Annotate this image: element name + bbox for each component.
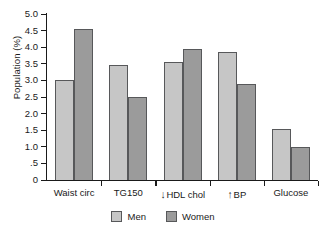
category-label-bp: ↑BP [227,188,246,200]
category-label-waist-circ: Waist circ [54,188,95,198]
legend: MenWomen [0,211,326,222]
legend-item-men: Men [111,211,145,222]
x-axis-line [46,180,318,181]
x-tick [155,181,156,186]
category-label-tg150: TG150 [114,188,143,198]
bar-men-waist-circ [55,80,74,180]
bar-women-bp [237,84,256,180]
y-tick-label: 4.5 [0,26,38,36]
category-label-text: Waist circ [54,187,95,198]
y-tick-label: 5.0 [0,9,38,19]
legend-item-women: Women [166,211,215,222]
category-label-text: Glucose [273,187,308,198]
category-label-glucose: Glucose [273,188,308,198]
y-tick-label: 3.0 [0,75,38,85]
bar-men-tg150 [109,65,128,180]
bar-women-hdl-chol [183,49,202,180]
legend-swatch-men [111,211,122,222]
up-arrow-icon: ↑ [228,188,233,200]
legend-swatch-women [166,211,177,222]
y-tick-label: 1.0 [0,142,38,152]
x-tick [101,181,102,186]
category-label-text: TG150 [114,187,143,198]
category-label-text: BP [234,189,247,200]
category-label-text: HDL chol [166,189,205,200]
y-tick-label: 2.0 [0,109,38,119]
plot-area [47,14,318,180]
bar-men-bp [218,52,237,180]
y-tick-label: 2.5 [0,92,38,102]
x-tick [264,181,265,186]
y-tick-label: 4.0 [0,42,38,52]
legend-label: Women [182,211,215,222]
bar-men-glucose [272,129,291,180]
bar-chart: Population (%) 5.04.54.03.53.02.52.01.51… [0,0,326,235]
bar-women-waist-circ [74,29,93,180]
bar-women-glucose [291,147,310,180]
down-arrow-icon: ↓ [160,188,165,200]
bar-men-hdl-chol [164,62,183,180]
y-tick-label: .5 [0,158,38,168]
y-tick-label: 3.5 [0,59,38,69]
category-label-hdl-chol: ↓HDL chol [160,188,205,200]
y-tick-label: 0 [0,175,38,185]
bar-women-tg150 [128,97,147,180]
y-tick-label: 1.5 [0,125,38,135]
x-tick [210,181,211,186]
legend-label: Men [127,211,145,222]
x-tick [318,181,319,186]
